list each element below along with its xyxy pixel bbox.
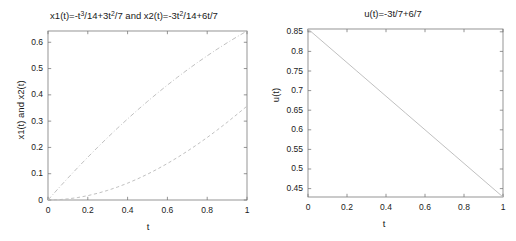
right-x-tick-label: 0.2: [327, 203, 367, 212]
left-x-tick-label: 0.6: [147, 206, 187, 215]
right-x-tick-label: 1: [483, 203, 516, 212]
right-x-axis-title: t: [354, 219, 414, 229]
left-x-tick-label: 0: [28, 206, 68, 215]
left-series-1: [48, 31, 247, 200]
right-x-tick-label: 0: [288, 203, 328, 212]
right-y-tick-label: 0.55: [264, 145, 303, 154]
left-y-tick-label: 0.4: [4, 90, 43, 99]
left-y-tick-label: 0.6: [4, 38, 43, 47]
left-x-tick-label: 0.8: [187, 206, 227, 215]
right-y-tick-label: 0.5: [264, 164, 303, 173]
right-y-tick-label: 0.8: [264, 47, 303, 56]
right-x-tick-label: 0.6: [405, 203, 445, 212]
chart-panel-left: x1(t)=-t3/14+3t2/7 and x2(t)=-3t2/14+6t/…: [0, 0, 260, 241]
left-y-tick-label: 0.5: [4, 64, 43, 73]
right-y-tick-label: 0.45: [264, 184, 303, 193]
right-x-tick-label: 0.4: [366, 203, 406, 212]
left-y-tick-label: 0.2: [4, 143, 43, 152]
chart-panel-right: u(t)=-3t/7+6/7 u(t) t 00.20.40.60.81 0.4…: [260, 0, 516, 241]
figure-canvas: x1(t)=-t3/14+3t2/7 and x2(t)=-3t2/14+6t/…: [0, 0, 516, 241]
right-x-tick-label: 0.8: [444, 203, 484, 212]
left-x-tick-label: 0.2: [68, 206, 108, 215]
left-y-tick-label: 0.1: [4, 169, 43, 178]
right-y-tick-label: 0.85: [264, 27, 303, 36]
left-x-tick-label: 0.4: [108, 206, 148, 215]
right-series-0: [308, 29, 503, 197]
left-y-tick-label: 0.3: [4, 117, 43, 126]
left-y-axis-title: x1(t) and x2(t): [16, 40, 26, 180]
right-y-tick-label: 0.65: [264, 106, 303, 115]
left-series-0: [48, 106, 247, 200]
right-y-tick-label: 0.6: [264, 125, 303, 134]
left-y-tick-label: 0: [4, 196, 43, 205]
right-y-tick-label: 0.7: [264, 86, 303, 95]
left-x-axis-title: t: [118, 222, 178, 232]
right-y-tick-label: 0.75: [264, 67, 303, 76]
